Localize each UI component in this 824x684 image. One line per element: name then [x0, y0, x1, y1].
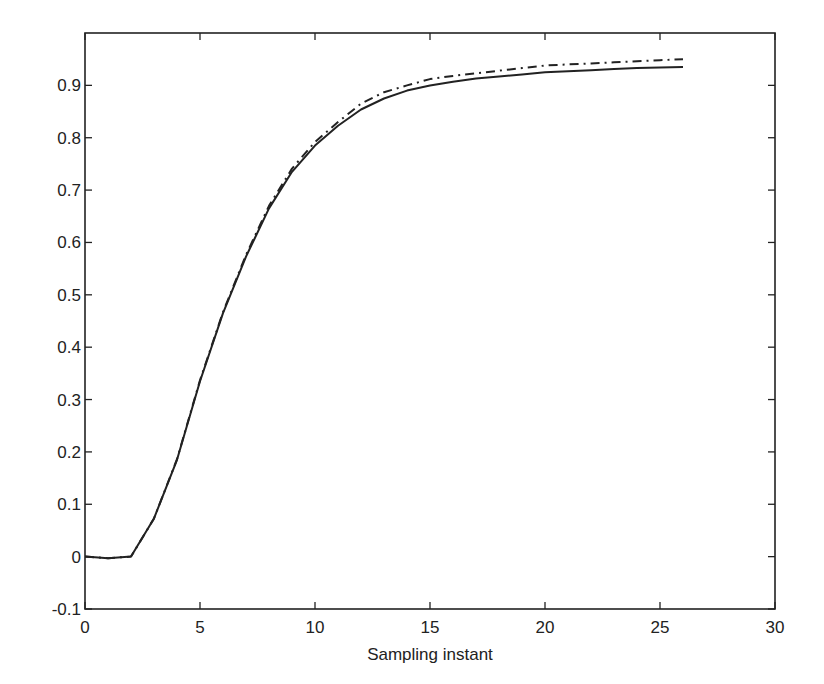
plot-frame	[85, 33, 775, 609]
x-tick-label: 15	[421, 618, 440, 637]
line-chart: 051015202530 -0.100.10.20.30.40.50.60.70…	[0, 0, 824, 684]
x-axis-label: Sampling instant	[367, 645, 493, 664]
y-tick-label: 0.9	[57, 76, 81, 95]
x-axis-ticks: 051015202530	[80, 33, 784, 637]
y-tick-label: 0.5	[57, 286, 81, 305]
y-tick-label: 0.8	[57, 129, 81, 148]
series-layer	[85, 59, 683, 558]
y-tick-label: 0	[72, 548, 81, 567]
series-solid	[85, 67, 683, 558]
series-dash-dot	[85, 59, 683, 558]
y-tick-label: 0.7	[57, 181, 81, 200]
y-tick-label: 0.2	[57, 443, 81, 462]
y-tick-label: 0.4	[57, 338, 81, 357]
y-axis-ticks: -0.100.10.20.30.40.50.60.70.80.9	[52, 76, 775, 619]
axes-box	[85, 33, 775, 609]
x-tick-label: 5	[195, 618, 204, 637]
x-tick-label: 0	[80, 618, 89, 637]
x-tick-label: 25	[651, 618, 670, 637]
x-tick-label: 10	[306, 618, 325, 637]
x-tick-label: 30	[766, 618, 785, 637]
y-tick-label: 0.3	[57, 391, 81, 410]
y-tick-label: 0.6	[57, 233, 81, 252]
y-tick-label: 0.1	[57, 495, 81, 514]
y-tick-label: -0.1	[52, 600, 81, 619]
x-tick-label: 20	[536, 618, 555, 637]
